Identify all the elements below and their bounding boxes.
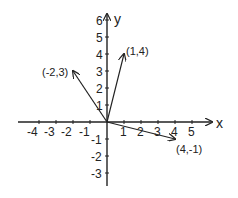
y-axis-label: y xyxy=(114,11,121,27)
coordinate-plane-diagram: -4 -3 -2 -1 1 2 3 4 5 x 6 5 4 3 2 1 -1 -… xyxy=(0,0,238,198)
x-tick-label: -4 xyxy=(27,125,38,139)
x-tick-label: -1 xyxy=(79,125,90,139)
y-tick-label: -1 xyxy=(91,133,102,147)
y-tick-label: -3 xyxy=(91,167,102,181)
x-axis-label: x xyxy=(216,115,223,131)
vector-label-1-4: (1,4) xyxy=(126,45,149,57)
x-tick-label: -3 xyxy=(44,125,55,139)
y-tick-label: 4 xyxy=(96,48,103,62)
y-axis: 6 5 4 3 2 1 -1 -2 -3 y xyxy=(91,11,121,186)
x-tick-label: -2 xyxy=(61,125,72,139)
y-tick-label: 3 xyxy=(96,65,103,79)
vector-label-4-neg1: (4,-1) xyxy=(176,143,202,155)
vector-1-4 xyxy=(107,54,124,122)
y-tick-label: 6 xyxy=(96,14,103,28)
x-tick-label: 2 xyxy=(137,125,144,139)
x-axis: -4 -3 -2 -1 1 2 3 4 5 x xyxy=(18,115,223,139)
x-tick-label: 3 xyxy=(154,125,161,139)
vector-label-neg2-3: (-2,3) xyxy=(42,66,68,78)
y-tick-label: 5 xyxy=(96,31,103,45)
y-tick-label: 2 xyxy=(96,82,103,96)
y-tick-label: -2 xyxy=(91,150,102,164)
x-tick-label: 5 xyxy=(188,125,195,139)
x-tick-label: 4 xyxy=(171,125,178,139)
